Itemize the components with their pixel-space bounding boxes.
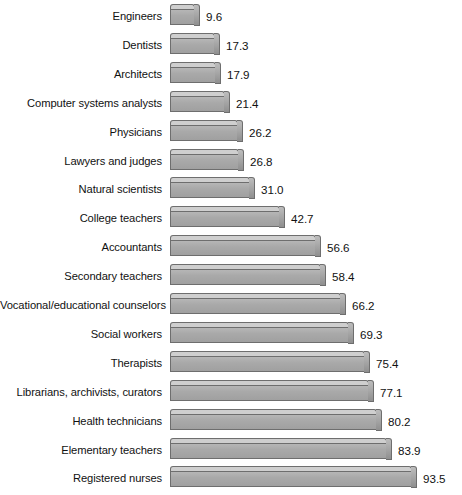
category-label: Lawyers and judges	[0, 154, 162, 167]
category-label: Librarians, archivists, curators	[0, 385, 162, 398]
bar	[170, 206, 286, 230]
category-label: Therapists	[0, 356, 162, 369]
bar-row: Social workers69.3	[0, 319, 462, 348]
category-label: College teachers	[0, 212, 162, 225]
value-label: 9.6	[206, 10, 222, 23]
bar-geometry	[170, 62, 222, 86]
bar-front-face	[170, 182, 250, 198]
bar-row: Registered nurses93.5	[0, 464, 462, 493]
bar-front-face	[170, 298, 341, 314]
category-label: Natural scientists	[0, 183, 162, 196]
bar	[170, 62, 222, 86]
bar-side-face	[279, 206, 285, 228]
bar-geometry	[170, 409, 383, 433]
bar-side-face	[315, 235, 321, 257]
bar	[170, 293, 347, 317]
bar-geometry	[170, 293, 347, 317]
bar-row: Accountants56.6	[0, 233, 462, 262]
bar-geometry	[170, 351, 371, 375]
bar-side-face	[386, 438, 392, 460]
bar-geometry	[170, 322, 355, 346]
bar-front-face	[170, 96, 225, 112]
bar-front-face	[170, 240, 316, 256]
category-label: Engineers	[0, 10, 162, 23]
bar-side-face	[411, 466, 417, 488]
category-label: Vocational/educational counselors	[0, 299, 162, 312]
bar-row: Lawyers and judges26.8	[0, 146, 462, 175]
bar	[170, 351, 371, 375]
bar-geometry	[170, 149, 245, 173]
value-label: 75.4	[376, 356, 399, 369]
bar-front-face	[170, 125, 238, 141]
value-label: 66.2	[352, 299, 375, 312]
bar-front-face	[170, 443, 387, 459]
bar-geometry	[170, 235, 322, 259]
bar-front-face	[170, 385, 369, 401]
bar-front-face	[170, 67, 216, 83]
bar-row: Computer systems analysts21.4	[0, 88, 462, 117]
value-label: 56.6	[327, 241, 350, 254]
category-label: Architects	[0, 67, 162, 80]
bar-row: Librarians, archivists, curators77.1	[0, 377, 462, 406]
bar	[170, 120, 244, 144]
bar-row: Therapists75.4	[0, 348, 462, 377]
value-label: 42.7	[291, 212, 314, 225]
bar-geometry	[170, 264, 327, 288]
bar-side-face	[249, 177, 255, 199]
category-label: Physicians	[0, 125, 162, 138]
value-label: 26.8	[250, 154, 273, 167]
category-label: Social workers	[0, 327, 162, 340]
bar-side-face	[340, 293, 346, 315]
bar-side-face	[368, 380, 374, 402]
bar-side-face	[237, 120, 243, 142]
bar-row: Natural scientists31.0	[0, 175, 462, 204]
bar	[170, 409, 383, 433]
value-label: 93.5	[423, 472, 446, 485]
value-label: 69.3	[360, 327, 383, 340]
value-label: 83.9	[398, 443, 421, 456]
bar-front-face	[170, 327, 349, 343]
bar-side-face	[364, 351, 370, 373]
bar	[170, 322, 355, 346]
bar-front-face	[170, 269, 321, 285]
category-label: Secondary teachers	[0, 270, 162, 283]
bar-side-face	[348, 322, 354, 344]
bar	[170, 4, 201, 28]
bar-front-face	[170, 211, 280, 227]
bar-front-face	[170, 414, 377, 430]
horizontal-bar-chart: Engineers9.6Dentists17.3Architects17.9Co…	[0, 0, 462, 495]
bar-row: College teachers42.7	[0, 204, 462, 233]
bar-geometry	[170, 380, 375, 404]
bar	[170, 264, 327, 288]
bar-side-face	[214, 33, 220, 55]
bar-front-face	[170, 9, 195, 25]
bar-side-face	[238, 149, 244, 171]
bar-row: Secondary teachers58.4	[0, 262, 462, 291]
category-label: Registered nurses	[0, 472, 162, 485]
bar-geometry	[170, 206, 286, 230]
bar-geometry	[170, 438, 393, 462]
bar-front-face	[170, 356, 365, 372]
bar-side-face	[215, 62, 221, 84]
value-label: 17.9	[227, 67, 250, 80]
value-label: 58.4	[332, 270, 355, 283]
category-label: Dentists	[0, 38, 162, 51]
value-label: 31.0	[261, 183, 284, 196]
bar-row: Elementary teachers83.9	[0, 435, 462, 464]
bar	[170, 235, 322, 259]
bar-front-face	[170, 471, 412, 487]
bar-row: Health technicians80.2	[0, 406, 462, 435]
category-label: Accountants	[0, 241, 162, 254]
bar	[170, 91, 231, 115]
value-label: 80.2	[388, 414, 411, 427]
bar	[170, 33, 221, 57]
bar-geometry	[170, 33, 221, 57]
value-label: 77.1	[380, 385, 403, 398]
category-label: Elementary teachers	[0, 443, 162, 456]
bar-row: Architects17.9	[0, 59, 462, 88]
value-label: 21.4	[236, 96, 259, 109]
bar-row: Physicians26.2	[0, 117, 462, 146]
bar-geometry	[170, 4, 201, 28]
bar	[170, 149, 245, 173]
bar	[170, 380, 375, 404]
